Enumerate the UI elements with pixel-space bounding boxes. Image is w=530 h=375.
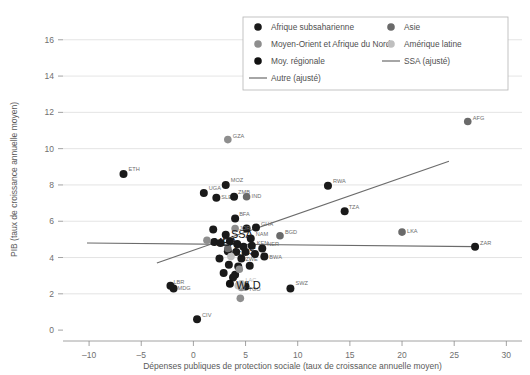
point-label-AFG: AFG (473, 115, 485, 121)
legend-label-line_other: Autre (ajusté) (271, 73, 321, 83)
point-label-ZAR: ZAR (480, 240, 491, 246)
ytick-label-14: 14 (45, 71, 55, 81)
point-label-RWA: RWA (333, 178, 346, 184)
legend-marker-regional_avg (254, 57, 262, 65)
point-label-ETH: ETH (129, 166, 140, 172)
ytick-label-6: 6 (49, 216, 54, 226)
xtick-label-30: 30 (502, 350, 512, 360)
xtick-label--10: –10 (82, 350, 96, 360)
legend-marker-ssa (254, 23, 262, 31)
data-point-ssa (225, 261, 233, 269)
data-point-mena (237, 295, 245, 303)
legend-label-line_ssa: SSA (ajusté) (404, 56, 450, 66)
legend-marker-latam (387, 40, 395, 48)
data-point-ETH (120, 170, 128, 178)
point-label-BFA: BFA (239, 211, 250, 217)
legend-label-regional_avg: Moy. régionale (271, 56, 325, 66)
data-point-UGA (200, 189, 208, 197)
xtick-label-20: 20 (397, 350, 407, 360)
point-label-MDG: MDG (178, 285, 191, 291)
point-label-SWZ: SWZ (295, 280, 308, 286)
xtick-label-0: 0 (191, 350, 196, 360)
data-point-CIV (193, 315, 201, 323)
point-label-GHA: GHA (261, 221, 273, 227)
x-axis-title: Dépenses publiques de protection sociale… (143, 361, 442, 371)
legend-marker-mena (254, 40, 262, 48)
data-point-ssa (220, 269, 228, 277)
aggregate-label-EAS: EAS (234, 245, 256, 257)
point-label-IND: IND (252, 193, 262, 199)
data-point-ssa (215, 254, 223, 262)
aggregate-label-WLD: WLD (236, 279, 261, 291)
xtick-label-25: 25 (449, 350, 459, 360)
point-label-CIV: CIV (202, 312, 212, 318)
point-label-LBR: LBR (173, 279, 184, 285)
point-label-MOZ: MOZ (231, 177, 244, 183)
data-point-TZA (341, 207, 349, 215)
point-label-LKA: LKA (407, 228, 418, 234)
data-point-LKA (398, 228, 406, 236)
data-point-ZMB (230, 193, 238, 201)
data-point-mena (235, 266, 243, 274)
point-label-GZA: GZA (233, 133, 245, 139)
ytick-label-4: 4 (49, 253, 54, 263)
data-point-NER (258, 244, 266, 252)
data-point-ZAR (471, 243, 479, 251)
point-label-TZA: TZA (349, 204, 360, 210)
y-axis-title: PIB (taux de croissance annuelle moyen) (9, 102, 19, 257)
ytick-label-8: 8 (49, 180, 54, 190)
data-point-GZA (224, 136, 232, 144)
data-point-MEA (203, 236, 211, 244)
point-label-NER: NER (267, 241, 279, 247)
data-point-BFA (231, 215, 239, 223)
scatter-chart: 0246810121416–10–5051015202530Dépenses p… (0, 0, 530, 375)
data-point-SLE (212, 194, 220, 202)
data-point-SWZ (286, 284, 294, 292)
data-point-ssa (246, 262, 254, 270)
point-label-NAM: NAM (256, 231, 269, 237)
point-label-UGA: UGA (209, 185, 221, 191)
xtick-label-5: 5 (243, 350, 248, 360)
xtick-label-10: 10 (293, 350, 303, 360)
data-point-BGD (276, 232, 284, 240)
xtick-label--5: –5 (137, 350, 147, 360)
legend-label-mena: Moyen-Orient et Afrique du Nord (271, 39, 391, 49)
point-label-BWA: BWA (269, 254, 282, 260)
ytick-label-2: 2 (49, 289, 54, 299)
data-point-WLD (226, 280, 234, 288)
legend-marker-asia (387, 23, 395, 31)
ytick-label-0: 0 (49, 325, 54, 335)
legend-label-ssa: Afrique subsaharienne (271, 22, 354, 32)
xtick-label-15: 15 (345, 350, 355, 360)
data-point-AFG (464, 118, 472, 126)
ytick-label-10: 10 (45, 144, 55, 154)
data-point-ssa (209, 225, 217, 233)
chart-canvas: 0246810121416–10–5051015202530Dépenses p… (0, 0, 530, 375)
data-point-BWA (260, 253, 268, 261)
fit-line-line_other (87, 243, 475, 247)
ytick-label-16: 16 (45, 35, 55, 45)
data-point-MOZ (222, 181, 230, 189)
ytick-label-12: 12 (45, 107, 55, 117)
data-point-GHA (252, 224, 260, 232)
data-point-IND (243, 193, 251, 201)
fit-line-line_ssa (157, 161, 449, 263)
legend-label-asia: Asie (404, 22, 421, 32)
data-point-RWA (324, 182, 332, 190)
legend-label-latam: Amérique latine (404, 39, 462, 49)
point-label-BGD: BGD (285, 229, 297, 235)
